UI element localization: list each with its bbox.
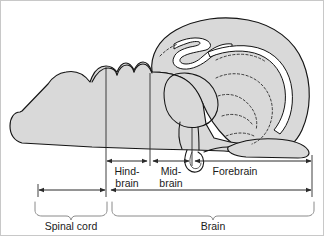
bracket-brain — [112, 202, 314, 220]
label-brain: Brain — [201, 220, 226, 232]
label-midbrain-line2: brain — [159, 177, 183, 189]
label-hindbrain-line1: Hind- — [114, 165, 140, 177]
pituitary-inner — [190, 152, 201, 169]
label-midbrain-line1: Mid- — [161, 165, 182, 177]
brain-diagram-figure: Hind- brain Mid- brain Forebrain Spinal … — [0, 0, 324, 236]
label-spinal-cord: Spinal cord — [45, 220, 98, 232]
label-hindbrain-line2: brain — [115, 177, 139, 189]
bracket-spinal-cord — [35, 202, 107, 220]
diagram-canvas: Hind- brain Mid- brain Forebrain Spinal … — [0, 0, 324, 236]
label-forebrain: Forebrain — [213, 165, 258, 177]
